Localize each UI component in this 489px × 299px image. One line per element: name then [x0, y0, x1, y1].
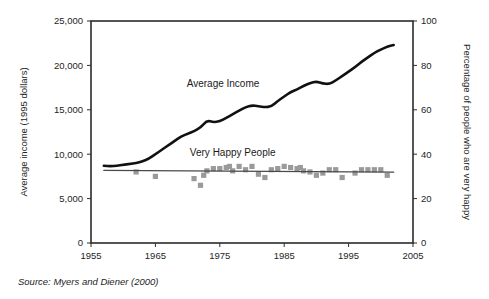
data-point [301, 168, 306, 173]
y-axis-tick-label: 20,000 [54, 60, 83, 71]
y2-axis-tick-label: 80 [421, 60, 432, 71]
y-axis-tick-label: 5,000 [59, 193, 83, 204]
x-axis-tick-label: 1975 [209, 250, 230, 261]
plot-frame [91, 21, 413, 243]
data-point [153, 174, 158, 179]
x-axis-tick-label: 2005 [402, 250, 423, 261]
series-annotation-very-happy-people: Very Happy People [190, 147, 276, 158]
data-point [385, 173, 390, 178]
chart-figure: 05,00010,00015,00020,00025,0000204060801… [0, 0, 489, 299]
data-point [191, 176, 196, 181]
data-point [249, 164, 254, 169]
data-point [256, 172, 261, 177]
x-axis-tick-label: 1965 [145, 250, 166, 261]
scatter-series-very-happy-people [133, 164, 389, 188]
data-point [237, 164, 242, 169]
y2-axis-tick-label: 0 [421, 237, 426, 248]
data-point [262, 175, 267, 180]
x-axis-tick-label: 1955 [80, 250, 101, 261]
data-point [201, 173, 206, 178]
x-axis-tick-label: 1995 [338, 250, 359, 261]
y2-axis-title: Percentage of people who are very happy [462, 44, 473, 220]
y-axis-tick-label: 15,000 [54, 104, 83, 115]
y2-axis-tick-label: 100 [421, 15, 437, 26]
data-point [282, 164, 287, 169]
series-annotation-average-income: Average Income [187, 78, 260, 89]
y2-axis-tick-label: 20 [421, 193, 432, 204]
data-point [227, 164, 232, 169]
data-point [288, 165, 293, 170]
y2-axis-tick-label: 40 [421, 149, 432, 160]
x-axis-tick-label: 1985 [274, 250, 295, 261]
y-axis-tick-label: 25,000 [54, 15, 83, 26]
data-point [352, 170, 357, 175]
source-label: Source: [18, 276, 51, 287]
y-axis-title: Average income (1995 dollars) [18, 67, 29, 196]
data-point [340, 175, 345, 180]
y2-axis-tick-label: 60 [421, 104, 432, 115]
trend-line-very-happy-people [104, 170, 394, 172]
data-point [275, 166, 280, 171]
data-point [198, 183, 203, 188]
income-vs-happiness-chart: 05,00010,00015,00020,00025,0000204060801… [0, 0, 489, 299]
data-point [314, 173, 319, 178]
y-axis-tick-label: 10,000 [54, 149, 83, 160]
source-note: Source: Myers and Diener (2000) [18, 276, 158, 287]
y-axis-tick-label: 0 [78, 237, 83, 248]
data-point [217, 166, 222, 171]
source-citation: Myers and Diener (2000) [53, 276, 158, 287]
